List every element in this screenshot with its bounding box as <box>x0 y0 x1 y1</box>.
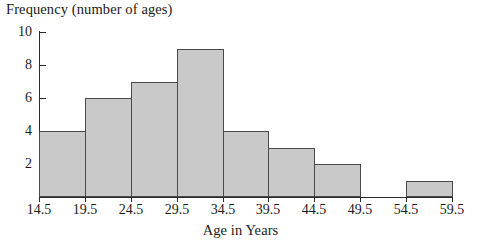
y-tick-label: 6 <box>2 91 32 105</box>
x-axis-title: Age in Years <box>0 222 481 239</box>
histogram-chart: Frequency (number of ages) 108642 14.519… <box>0 0 481 243</box>
y-tick-label: 8 <box>2 58 32 72</box>
histogram-bar <box>406 181 453 197</box>
x-tick-label: 44.5 <box>294 203 334 217</box>
chart-title: Frequency (number of ages) <box>6 1 172 18</box>
y-tick-label: 10 <box>2 25 32 39</box>
x-tick-label: 34.5 <box>203 203 243 217</box>
y-tick-label: 4 <box>2 124 32 138</box>
x-tick-label: 59.5 <box>432 203 472 217</box>
x-tick-label: 49.5 <box>340 203 380 217</box>
histogram-bar <box>223 131 269 197</box>
x-tick-label: 29.5 <box>157 203 197 217</box>
histogram-bar <box>268 148 315 197</box>
x-tick-label: 24.5 <box>111 203 151 217</box>
histogram-bar <box>314 164 361 197</box>
histogram-bar <box>39 131 86 197</box>
y-tick-mark <box>39 98 46 99</box>
x-tick-label: 14.5 <box>19 203 59 217</box>
y-tick-label: 2 <box>2 157 32 171</box>
y-tick-mark <box>39 32 46 33</box>
x-tick-label: 39.5 <box>248 203 288 217</box>
x-tick-label: 19.5 <box>65 203 105 217</box>
histogram-bar <box>85 98 132 197</box>
x-tick-label: 54.5 <box>386 203 426 217</box>
histogram-bar <box>177 49 224 197</box>
y-tick-mark <box>39 65 46 66</box>
x-axis-line <box>39 197 452 198</box>
histogram-bar <box>131 82 178 197</box>
